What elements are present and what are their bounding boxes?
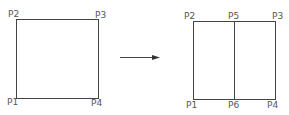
transform-arrow — [120, 55, 160, 60]
right-label-p3: P3 — [272, 11, 283, 21]
diagram-canvas: P2 P3 P1 P4 P2 P5 P3 P1 P6 P4 — [0, 0, 289, 115]
left-label-p2: P2 — [8, 9, 19, 19]
left-label-p3: P3 — [95, 10, 106, 20]
left-label-p1: P1 — [7, 97, 18, 107]
left-label-p4: P4 — [91, 98, 102, 108]
right-square: P2 P5 P3 P1 P6 P4 — [184, 11, 283, 110]
right-label-p1: P1 — [186, 100, 197, 110]
right-label-p2: P2 — [184, 11, 195, 21]
left-square-outline — [17, 20, 99, 99]
right-label-p5: P5 — [228, 11, 239, 21]
arrow-head-icon — [152, 55, 160, 60]
right-label-p4: P4 — [267, 100, 278, 110]
right-label-p6: P6 — [228, 100, 239, 110]
left-square: P2 P3 P1 P4 — [7, 9, 106, 108]
